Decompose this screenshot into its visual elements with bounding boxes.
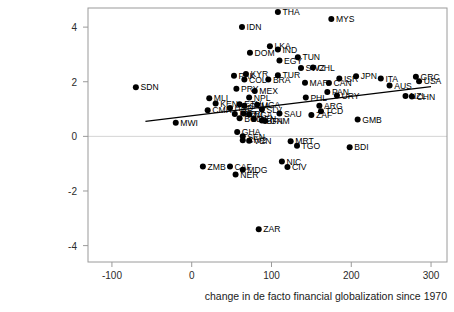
x-tick-label: 300 (423, 270, 440, 281)
data-point-marker (288, 138, 294, 144)
data-point-marker (302, 80, 308, 86)
data-point: SDN (133, 82, 159, 92)
data-point-marker (206, 95, 212, 101)
scatter-chart-figure: -1000100200300-4-2024THAMYSIDNLKAINDDOMT… (0, 0, 454, 312)
data-point-marker (275, 9, 281, 15)
data-point-label: IND (282, 45, 297, 55)
data-point-label: GMB (362, 115, 382, 125)
data-point-marker (239, 24, 245, 30)
data-point-marker (233, 172, 239, 178)
data-point: THA (275, 7, 300, 17)
data-point-marker (276, 57, 282, 63)
data-point-label: IDN (247, 22, 262, 32)
data-point-label: ZMB (207, 162, 225, 172)
data-point: MWI (173, 118, 198, 128)
y-tick-label: 0 (71, 131, 77, 142)
data-point-label: CHL (318, 63, 335, 73)
data-point: DOM (247, 48, 275, 58)
x-tick-label: 0 (189, 270, 195, 281)
data-point: BDI (347, 142, 369, 152)
data-point-label: TUN (302, 52, 320, 62)
plot-canvas: -1000100200300-4-2024THAMYSIDNLKAINDDOMT… (0, 0, 454, 312)
data-point-label: BRA (273, 75, 291, 85)
data-point-marker (378, 75, 384, 81)
data-point-label: ZAF (316, 110, 332, 120)
data-point-marker (133, 84, 139, 90)
data-point-label: SDN (140, 82, 158, 92)
data-point-marker (231, 73, 237, 79)
data-point-marker (303, 95, 309, 101)
data-point-marker (240, 137, 246, 143)
data-point-marker (251, 116, 257, 122)
data-point: ZAF (308, 110, 332, 120)
data-point-label: VEN (254, 136, 272, 146)
data-point-marker (227, 163, 233, 169)
data-point: IDN (239, 22, 261, 32)
x-tick-label: -100 (102, 270, 122, 281)
data-point-marker (200, 163, 206, 169)
data-point-label: AUS (394, 81, 412, 91)
data-point-label: URY (342, 91, 360, 101)
data-point-marker (246, 138, 252, 144)
data-point-marker (205, 107, 211, 113)
data-point-label: THA (282, 7, 299, 17)
data-point-label: TGO (302, 141, 321, 151)
data-point-marker (387, 83, 393, 89)
y-tick-label: -4 (68, 241, 77, 252)
data-point-label: CHN (416, 92, 435, 102)
data-point-label: USA (424, 76, 442, 86)
data-point-marker (328, 16, 334, 22)
data-point-label: BDI (354, 142, 368, 152)
x-tick-label: 100 (263, 270, 280, 281)
data-point-label: GNM (270, 116, 290, 126)
data-point-marker (256, 226, 262, 232)
data-point-label: MWI (180, 118, 198, 128)
data-point-label: DOM (255, 48, 275, 58)
data-point-marker (403, 93, 409, 99)
y-tick-label: 2 (71, 77, 77, 88)
data-point-marker (275, 47, 281, 53)
data-point-marker (353, 73, 359, 79)
data-point-label: CIV (292, 162, 307, 172)
data-point-marker (334, 92, 340, 98)
data-point: GMB (355, 115, 382, 125)
data-point-marker (316, 103, 322, 109)
data-point: MAR (302, 78, 329, 88)
data-point-marker (326, 80, 332, 86)
data-point-marker (227, 105, 233, 111)
scatter-plot-svg: -1000100200300-4-2024THAMYSIDNLKAINDDOMT… (0, 0, 454, 312)
data-point-marker (247, 50, 253, 56)
data-point-marker (355, 116, 361, 122)
data-point-marker (233, 86, 239, 92)
data-point-label: MAR (310, 78, 329, 88)
data-point: BRA (265, 75, 291, 85)
y-tick-label: 4 (71, 22, 77, 33)
data-point-marker (409, 93, 415, 99)
data-point-label: JPN (361, 71, 377, 81)
data-point-marker (237, 115, 243, 121)
data-point-marker (308, 112, 314, 118)
data-point-marker (241, 77, 247, 83)
data-point: EGY (276, 56, 302, 66)
data-point-marker (347, 144, 353, 150)
x-axis-title: change in de facto financial globalizati… (205, 290, 447, 302)
data-point-marker (262, 118, 268, 124)
data-point: ZAR (256, 224, 281, 234)
data-point-marker (416, 78, 422, 84)
data-point: ZMB (200, 162, 226, 172)
data-point-label: EGY (284, 56, 302, 66)
data-point-marker (294, 143, 300, 149)
data-point-label: MYS (336, 14, 355, 24)
data-point-marker (310, 65, 316, 71)
data-point-marker (279, 158, 285, 164)
data-point-marker (232, 111, 238, 117)
data-point-label: NER (240, 170, 258, 180)
data-point-marker (173, 120, 179, 126)
x-tick-label: 200 (343, 270, 360, 281)
data-point-label: ZAR (263, 224, 280, 234)
data-point-marker (284, 164, 290, 170)
data-point: MYS (328, 14, 354, 24)
data-point-marker (336, 75, 342, 81)
data-point-marker (234, 129, 240, 135)
data-point-marker (265, 77, 271, 83)
